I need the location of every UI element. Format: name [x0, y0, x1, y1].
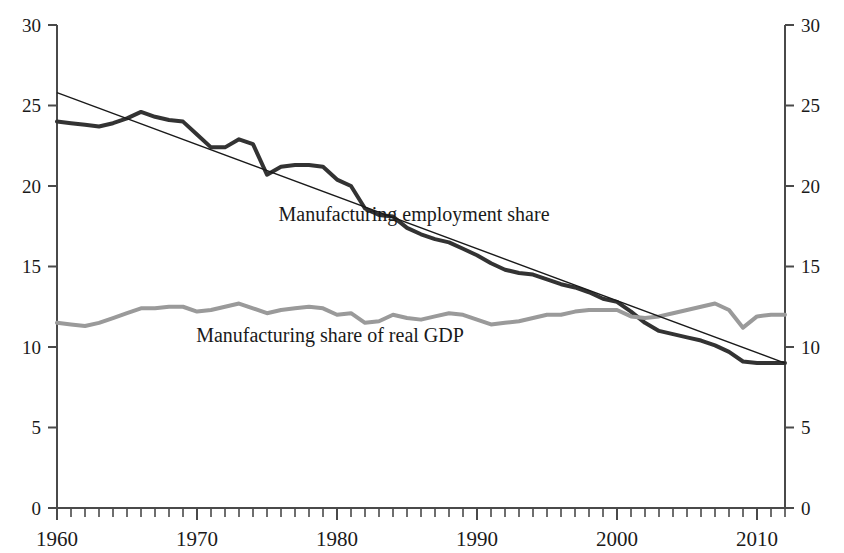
y-tick-label-left: 0 [32, 498, 42, 519]
y-tick-label-right: 20 [801, 176, 820, 197]
x-tick-label: 2000 [596, 527, 638, 551]
y-tick-label-left: 30 [22, 15, 41, 36]
x-tick-label: 1980 [316, 527, 358, 551]
x-tick-label: 1960 [36, 527, 78, 551]
y-tick-label-right: 15 [801, 256, 820, 277]
y-tick-label-left: 20 [22, 176, 41, 197]
y-tick-label-right: 10 [801, 337, 820, 358]
x-tick-label: 2010 [736, 527, 778, 551]
y-tick-label-right: 5 [801, 417, 811, 438]
gdp-series-label: Manufacturing share of real GDP [196, 324, 464, 347]
line-chart: 051015202530 051015202530 19601970198019… [0, 0, 844, 553]
y-tick-label-left: 15 [22, 256, 41, 277]
employment-series-label: Manufacturing employment share [278, 203, 549, 226]
y-tick-label-right: 30 [801, 15, 820, 36]
chart-background [0, 0, 844, 553]
y-tick-label-left: 10 [22, 337, 41, 358]
y-tick-label-right: 25 [801, 95, 820, 116]
y-tick-label-left: 5 [32, 417, 42, 438]
y-tick-label-right: 0 [801, 498, 811, 519]
x-tick-label: 1970 [176, 527, 218, 551]
chart-container: 051015202530 051015202530 19601970198019… [0, 0, 844, 553]
y-tick-label-left: 25 [22, 95, 41, 116]
x-tick-label: 1990 [456, 527, 498, 551]
